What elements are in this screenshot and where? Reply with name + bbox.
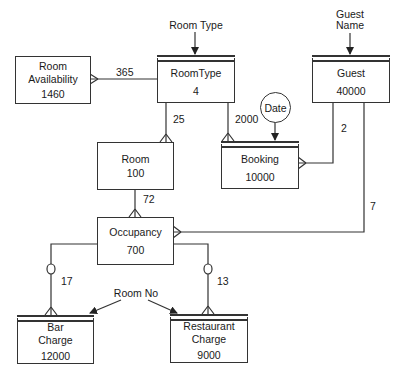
entity-volume: 10000 xyxy=(245,169,274,185)
entity-volume: 100 xyxy=(127,165,145,181)
entity-volume: 40000 xyxy=(336,83,365,99)
cardinality-13: 13 xyxy=(217,275,229,287)
entity-name-line2: Availability xyxy=(28,71,77,87)
cardinality-2: 2 xyxy=(341,122,347,134)
entity-name: Occupancy xyxy=(109,224,162,240)
entity-volume: 700 xyxy=(127,242,145,258)
entry-label-guest-name-line2: Name xyxy=(336,19,364,31)
entity-name: RoomType xyxy=(171,65,222,81)
entity-volume: 4 xyxy=(193,83,199,99)
entity-occupancy[interactable]: Occupancy 700 xyxy=(97,217,174,265)
entry-label-room-type: Room Type xyxy=(169,19,223,31)
entity-room-type[interactable]: RoomType 4 xyxy=(157,55,235,103)
entry-date-circle: Date xyxy=(260,92,291,123)
cardinality-365: 365 xyxy=(116,66,134,78)
cardinality-25: 25 xyxy=(173,113,185,125)
entity-guest[interactable]: Guest 40000 xyxy=(312,55,390,103)
entity-name: Booking xyxy=(241,151,279,167)
entity-name-line2: Charge xyxy=(192,331,226,347)
entity-bar-charge[interactable]: Bar Charge 12000 xyxy=(17,315,94,364)
entity-restaurant-charge[interactable]: Restaurant Charge 9000 xyxy=(170,314,248,363)
entity-booking[interactable]: Booking 10000 xyxy=(221,141,299,189)
cardinality-17: 17 xyxy=(61,275,73,287)
entity-volume: 9000 xyxy=(197,347,220,363)
entry-label-room-no: Room No xyxy=(114,287,158,299)
entity-room[interactable]: Room 100 xyxy=(97,142,174,190)
cardinality-2000: 2000 xyxy=(235,113,258,125)
entity-name: Guest xyxy=(337,65,365,81)
entity-volume: 1460 xyxy=(41,86,64,102)
entity-room-availability[interactable]: Room Availability 1460 xyxy=(15,56,91,104)
entity-name-line2: Charge xyxy=(38,332,72,348)
cardinality-72: 72 xyxy=(143,193,155,205)
entity-volume: 12000 xyxy=(41,348,70,364)
entry-label-date: Date xyxy=(264,102,286,114)
cardinality-7: 7 xyxy=(370,200,376,212)
